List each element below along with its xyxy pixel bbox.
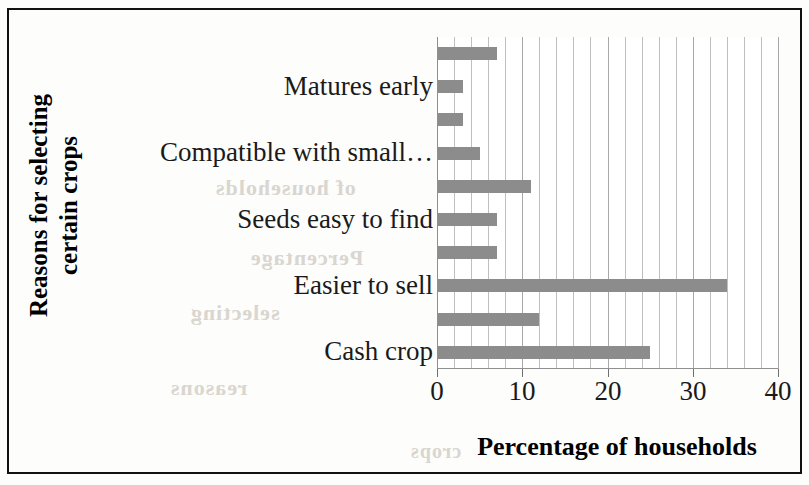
x-axis-tick-label: 30 [680,378,707,405]
y-axis-line [437,37,438,369]
bar-slot [437,103,778,136]
x-axis-tick-mark [608,369,609,377]
bar-slot [437,236,778,269]
bar-slot [437,269,778,302]
y-axis-tick-label: Matures early [284,73,433,100]
bar[interactable] [437,80,463,93]
x-axis-tick-mark [693,369,694,377]
bar[interactable] [437,279,727,292]
x-axis-tick-labels: 010203040 [437,378,778,412]
bar[interactable] [437,113,463,126]
x-axis-tick-label: 40 [765,378,792,405]
bar-slot [437,37,778,70]
bar[interactable] [437,213,497,226]
y-axis-tick-label: Easier to sell [294,272,433,299]
bar[interactable] [437,346,650,359]
x-axis-tick-label: 20 [595,378,622,405]
x-axis-tick-mark [522,369,523,377]
bar-slot [437,170,778,203]
plot-area [437,37,778,369]
bar-slot [437,70,778,103]
y-axis-tick-label: Compatible with small… [160,139,433,166]
bar[interactable] [437,47,497,60]
bar-slot [437,137,778,170]
bar[interactable] [437,246,497,259]
x-axis-tick-mark [437,369,438,377]
x-axis-tick-mark [778,369,779,377]
bar[interactable] [437,147,480,160]
y-axis-tick-label: Cash crop [324,338,433,365]
gridline-major [778,37,779,369]
x-axis-tick-label: 10 [509,378,536,405]
y-axis-tick-label: Seeds easy to find [237,206,433,233]
chart-figure: of households Percentage selecting reaso… [0,0,809,485]
bar[interactable] [437,313,539,326]
x-axis-title: Percentage of households [437,432,797,462]
bar[interactable] [437,180,531,193]
y-axis-tick-labels: Matures earlyCompatible with small…Seeds… [0,37,433,369]
bar-slot [437,336,778,369]
bar-slot [437,203,778,236]
x-axis-tick-label: 0 [430,378,444,405]
bar-slot [437,303,778,336]
